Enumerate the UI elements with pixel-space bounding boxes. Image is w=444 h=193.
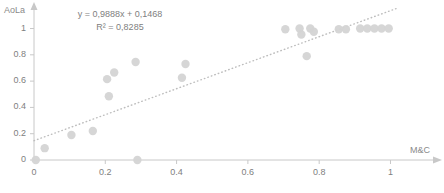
regression-equation: y = 0,9888x + 0,1468 (60, 8, 180, 21)
x-axis-arrow (433, 157, 442, 164)
x-tick-label: 0.8 (304, 168, 334, 177)
x-tick-label: 0 (19, 168, 49, 177)
y-tick-label: 1 (0, 24, 26, 33)
scatter-chart: y = 0,9888x + 0,1468 R² = 0,8285 AoLa M&… (0, 0, 444, 193)
data-point (89, 127, 97, 135)
x-tick-label: 0.2 (90, 168, 120, 177)
data-point (133, 156, 141, 164)
y-axis-title: AoLa (4, 6, 25, 15)
data-point (310, 28, 318, 36)
x-tick-label: 0.6 (233, 168, 263, 177)
y-tick-label: 0.6 (0, 76, 26, 85)
data-point (181, 60, 189, 68)
y-axis-arrow (31, 2, 38, 10)
data-point (131, 58, 139, 66)
data-point (67, 131, 75, 139)
data-point (110, 68, 118, 76)
data-point (178, 74, 186, 82)
data-point (297, 30, 305, 38)
x-tick-label: 1 (375, 168, 405, 177)
regression-annotation: y = 0,9888x + 0,1468 R² = 0,8285 (60, 8, 180, 34)
y-tick-label: 0.2 (0, 129, 26, 138)
data-point (342, 25, 350, 33)
data-point (385, 24, 393, 32)
y-tick-label: 0 (0, 155, 26, 164)
data-point (303, 52, 311, 60)
r-squared-value: R² = 0,8285 (60, 21, 180, 34)
data-point (103, 75, 111, 83)
y-tick-label: 0.8 (0, 50, 26, 59)
x-axis-title: M&C (410, 146, 430, 155)
x-tick-label: 0.4 (162, 168, 192, 177)
data-point (281, 25, 289, 33)
data-point (40, 144, 48, 152)
data-point (32, 156, 40, 164)
data-point (105, 92, 113, 100)
data-points (32, 24, 393, 164)
y-tick-label: 0.4 (0, 102, 26, 111)
